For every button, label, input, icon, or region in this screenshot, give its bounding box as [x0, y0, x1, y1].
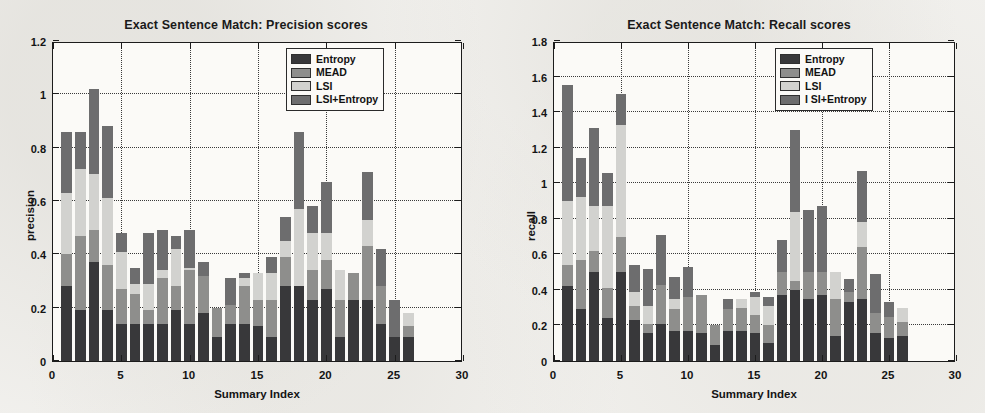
precision-ytick-label: 0.8 [6, 143, 46, 155]
recall-bar-segment-mead [870, 313, 880, 333]
precision-plot-area [53, 43, 461, 361]
recall-bar-segment-entropy [790, 290, 800, 361]
precision-bar-segment-lsi [266, 273, 277, 300]
recall-bar-segment-lsi-entropy [669, 277, 679, 298]
precision-bar-segment-lsi-entropy [362, 172, 373, 220]
precision-xtick [326, 355, 327, 361]
precision-bar-segment-lsi [294, 209, 305, 286]
recall-ytick [554, 147, 560, 148]
precision-bar-segment-lsi-entropy [225, 278, 236, 305]
precision-bar [376, 249, 387, 361]
precision-bar-segment-mead [212, 308, 223, 337]
recall-bar-segment-entropy [844, 302, 854, 361]
legend-label: I SI+Entropy [805, 94, 867, 105]
precision-bar [212, 308, 223, 361]
recall-bar-segment-mead [576, 260, 586, 310]
recall-ytick-label: 0.6 [507, 249, 547, 261]
precision-bar-segment-lsi-entropy [157, 230, 168, 270]
recall-bar [710, 325, 720, 361]
recall-bar-segment-lsi-entropy [589, 128, 599, 206]
recall-bar-segment-lsi-entropy [562, 85, 572, 201]
recall-bar-segment-entropy [736, 331, 746, 361]
recall-bar-segment-mead [750, 315, 760, 333]
recall-bar-segment-entropy [629, 320, 639, 361]
recall-bar-segment-mead [629, 306, 639, 320]
recall-bar-segment-entropy [817, 295, 827, 361]
recall-bar [777, 240, 787, 361]
recall-bar-segment-entropy [656, 324, 666, 361]
precision-bar-segment-lsi-entropy [130, 268, 141, 284]
recall-bar [562, 85, 572, 361]
precision-bar [130, 268, 141, 361]
recall-bar-segment-lsi [616, 125, 626, 237]
precision-bar-segment-entropy [335, 337, 346, 361]
recall-legend-item: I SI+Entropy [780, 93, 867, 106]
recall-ytick [554, 40, 560, 41]
precision-bar-segment-lsi [102, 198, 113, 265]
precision-bar-segment-entropy [321, 289, 332, 361]
recall-xtick-top [621, 43, 622, 49]
precision-bar-segment-entropy [348, 300, 359, 361]
precision-ytick [53, 40, 59, 41]
precision-bar-segment-lsi-entropy [389, 300, 400, 337]
recall-bar [576, 158, 586, 361]
precision-bar-segment-lsi-entropy [61, 132, 72, 193]
precision-xtick [463, 355, 464, 361]
recall-bar [844, 279, 854, 361]
recall-bar-segment-entropy [777, 295, 787, 361]
recall-bar-segment-entropy [562, 286, 572, 361]
recall-xtick-top [755, 43, 756, 49]
precision-legend-item: LSI+Entropy [291, 93, 378, 106]
precision-bar-segment-entropy [61, 286, 72, 361]
precision-bar-segment-entropy [239, 324, 250, 361]
recall-bar-segment-mead [562, 265, 572, 286]
recall-ytick-label: 0.4 [507, 285, 547, 297]
recall-bar-segment-mead [602, 288, 612, 318]
recall-ytick [554, 111, 560, 112]
precision-legend-item: Entropy [291, 53, 378, 66]
precision-bar-segment-lsi [307, 233, 318, 270]
precision-bar-segment-lsi-entropy [102, 126, 113, 198]
precision-bar-segment-mead [198, 276, 209, 313]
recall-bar-segment-lsi-entropy [803, 210, 813, 272]
legend-swatch-lsi-entropy [780, 95, 800, 105]
precision-xtick-top [258, 43, 259, 49]
recall-bar [669, 277, 679, 361]
recall-bar [589, 128, 599, 361]
legend-label: MEAD [316, 67, 347, 78]
recall-ytick-label: 1.6 [507, 72, 547, 84]
precision-bar-segment-entropy [130, 324, 141, 361]
recall-bar-segment-mead [683, 297, 693, 331]
precision-bar-segment-lsi-entropy [266, 257, 277, 273]
recall-bar [616, 94, 626, 361]
precision-bar [184, 230, 195, 361]
precision-bar-segment-mead [75, 236, 86, 311]
legend-label: LSI [316, 81, 332, 92]
recall-bar-segment-entropy [763, 343, 773, 361]
precision-xtick [121, 355, 122, 361]
recall-bar [629, 265, 639, 361]
precision-bar [75, 132, 86, 361]
precision-bar [389, 300, 400, 361]
recall-bar-segment-entropy [830, 336, 840, 361]
precision-ytick-right [455, 360, 461, 361]
precision-bar-segment-entropy [376, 324, 387, 361]
precision-bar [89, 89, 100, 361]
precision-xtick-label: 30 [456, 369, 469, 381]
recall-bar-segment-lsi [589, 206, 599, 250]
precision-bar [225, 278, 236, 361]
recall-ytick-right [948, 40, 954, 41]
precision-ytick-label: 0.4 [6, 249, 46, 261]
precision-xtick-label: 10 [182, 369, 195, 381]
recall-bar-segment-entropy [643, 333, 653, 361]
precision-bar-segment-entropy [266, 337, 277, 361]
precision-bar-segment-lsi-entropy [198, 262, 209, 275]
precision-bar [280, 217, 291, 361]
precision-bar-segment-lsi [61, 193, 72, 254]
recall-plot-area [554, 43, 954, 361]
recall-ytick-right [948, 218, 954, 219]
recall-ytick [554, 76, 560, 77]
precision-bar-segment-lsi [239, 278, 250, 286]
recall-xtick-top [688, 43, 689, 49]
precision-bars [53, 43, 461, 361]
